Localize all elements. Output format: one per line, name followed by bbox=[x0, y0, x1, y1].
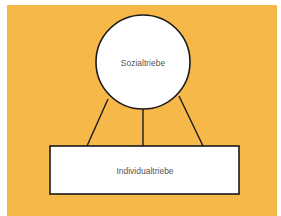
diagram-canvas bbox=[0, 0, 281, 216]
individualtriebe-label: Individualtriebe bbox=[95, 166, 195, 176]
connector-left bbox=[87, 99, 108, 146]
connector-right bbox=[179, 96, 203, 146]
sozialtriebe-label: Sozialtriebe bbox=[103, 58, 183, 68]
